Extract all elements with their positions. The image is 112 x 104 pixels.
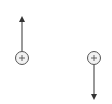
diagram-canvas	[0, 0, 112, 104]
right-sum-node	[88, 52, 101, 98]
left-sum-node	[16, 19, 29, 65]
